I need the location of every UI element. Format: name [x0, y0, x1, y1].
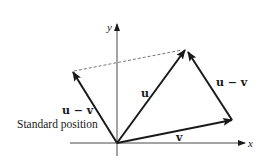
y-axis-label: y: [106, 21, 112, 33]
vector-u: [117, 50, 185, 143]
vector-v: [117, 120, 232, 143]
label-u-minus-v-left: u − v: [62, 104, 94, 117]
label-u: u: [141, 87, 149, 100]
dashed-connector: [74, 50, 182, 71]
label-v: v: [175, 131, 183, 144]
standard-position-label: Standard position: [17, 118, 98, 131]
label-u-minus-v-right: u − v: [216, 76, 248, 89]
x-axis-label: x: [247, 137, 253, 149]
vector-diagram: x y u v u − v u − v Standard position: [0, 0, 268, 163]
